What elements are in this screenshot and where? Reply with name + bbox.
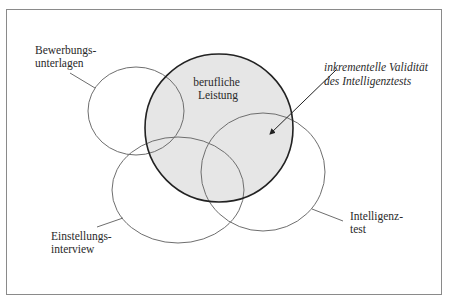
criterion-label: berufliche Leistung: [193, 76, 243, 102]
venn-diagram: berufliche Leistung Bewerbungs- unterlag…: [0, 0, 449, 300]
